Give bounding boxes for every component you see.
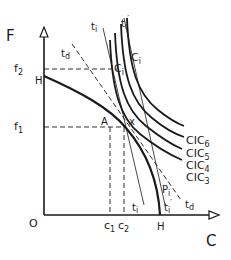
point-a-label: A: [101, 116, 108, 127]
h-y-label: H: [35, 75, 43, 86]
c1-label: c1: [104, 219, 115, 234]
td-bottom-label: td: [185, 199, 194, 212]
origin-label: O: [29, 217, 38, 230]
f2-label: f2: [14, 62, 23, 77]
point-x-label: x: [129, 116, 135, 127]
td-top-label: td: [61, 48, 70, 61]
tangent-lines: [103, 18, 165, 205]
f1-label: f1: [14, 120, 23, 135]
y-axis-label: F: [6, 27, 15, 45]
x-axis-label: C: [206, 232, 216, 250]
ti-prime-bottom-label: ti′: [164, 199, 172, 215]
cic3-curve: [110, 40, 182, 160]
x-axis-arrow-icon: [209, 211, 219, 219]
ti-top-label: ti: [91, 21, 97, 34]
c2-label: c2: [118, 219, 129, 234]
y-axis-arrow-icon: [40, 27, 48, 37]
td-line: [72, 44, 181, 200]
h-x-label: H: [157, 221, 165, 232]
point-ci-prime-label: Ci′: [114, 60, 126, 77]
indifference-curves: [110, 18, 184, 160]
point-ci-label: Ci: [131, 51, 141, 66]
production-consumption-diagram: F C O f2 H f1 c1 c2 H A x Ci Ci′ Pi td t…: [0, 0, 231, 260]
ti-bottom-label: ti: [132, 202, 138, 215]
